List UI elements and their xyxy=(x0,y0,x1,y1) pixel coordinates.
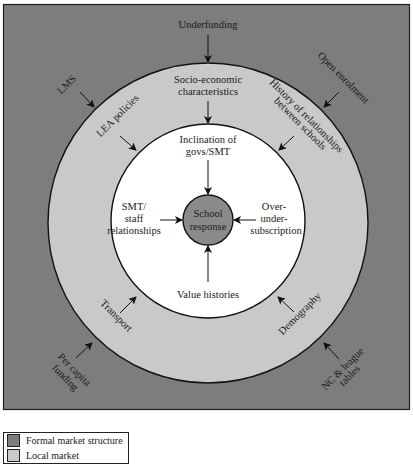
inner-left-3: relationships xyxy=(107,225,161,236)
legend-item-formal: Formal market structure xyxy=(4,433,128,448)
legend-label-formal: Formal market structure xyxy=(26,435,123,446)
legend: Formal market structure Local market xyxy=(3,432,129,464)
inner-bottom: Value histories xyxy=(177,289,239,300)
inner-top-1: Inclination of xyxy=(180,134,237,145)
swatch-formal xyxy=(7,434,20,447)
middle-top-2: characteristics xyxy=(178,86,238,97)
inner-right-3: subscription xyxy=(250,225,302,236)
center-label-1: School xyxy=(193,208,222,219)
inner-right-2: under- xyxy=(260,213,288,224)
outer-top: Underfunding xyxy=(179,19,239,30)
legend-label-local: Local market xyxy=(26,450,79,461)
inner-right-1: Over- xyxy=(262,201,287,212)
inner-left-1: SMT/ xyxy=(122,201,147,212)
middle-top-1: Socio-economic xyxy=(174,74,243,85)
legend-item-local: Local market xyxy=(4,448,128,463)
school-response-circle xyxy=(183,195,233,245)
inner-top-2: govs/SMT xyxy=(186,146,231,157)
center-label-2: response xyxy=(190,221,227,232)
swatch-local xyxy=(7,449,20,462)
inner-left-2: staff xyxy=(125,213,144,224)
